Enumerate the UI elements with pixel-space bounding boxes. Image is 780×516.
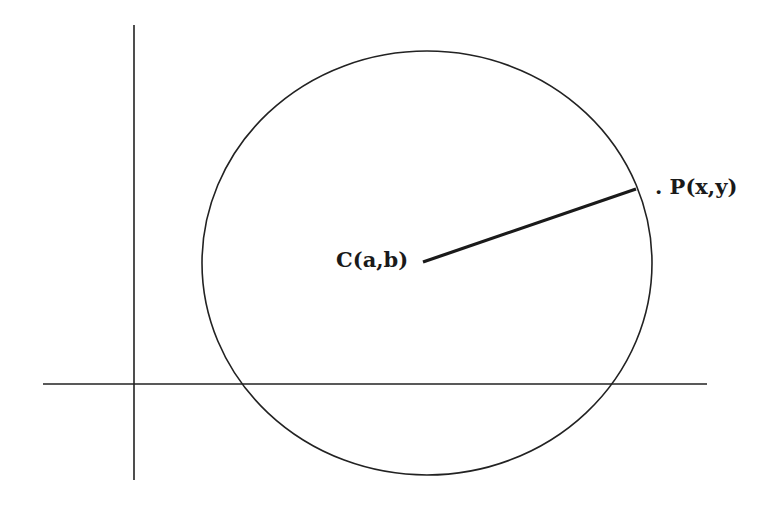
point-label: . P(x,y) [655,176,737,197]
circle [202,51,652,475]
center-label: C(a,b) [336,249,408,270]
radius-segment [423,189,636,262]
